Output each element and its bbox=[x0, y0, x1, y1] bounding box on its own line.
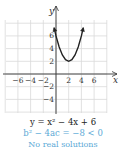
y-axis-label: y bbox=[48, 6, 55, 16]
axes bbox=[3, 6, 117, 114]
equation-caption: y = x² − 4x + 6 bbox=[0, 117, 126, 127]
x-tick-label: 2 bbox=[66, 76, 71, 85]
y-tick-label: 2 bbox=[49, 57, 54, 66]
x-tick-label: 4 bbox=[79, 76, 84, 85]
y-tick-label: −4 bbox=[43, 95, 54, 104]
x-tick-label: −6 bbox=[12, 76, 23, 85]
x-tick-label: 6 bbox=[92, 76, 97, 85]
x-tick-label: −4 bbox=[25, 76, 36, 85]
discriminant-caption: b² − 4ac = −8 < 0 bbox=[0, 128, 126, 138]
y-tick-label: 6 bbox=[49, 31, 54, 40]
y-tick-label: −2 bbox=[43, 82, 54, 91]
x-axis-label: x bbox=[113, 75, 118, 85]
parabola-graph: −6−4−2246642−2−4 y x bbox=[0, 0, 126, 118]
cutoff-caption: No real solutions bbox=[0, 140, 126, 148]
tick-labels: −6−4−2246642−2−4 bbox=[12, 31, 96, 104]
y-tick-label: 4 bbox=[49, 44, 54, 53]
